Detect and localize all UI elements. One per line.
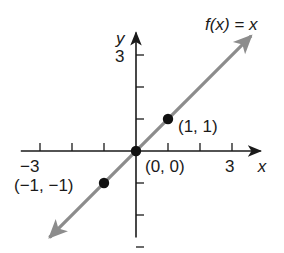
point-label: (0, 0) xyxy=(145,157,185,176)
function-line-path xyxy=(50,36,252,238)
y-tick-label: 3 xyxy=(115,47,124,66)
function-line-start-arrow xyxy=(50,228,60,238)
x-tick-label: 3 xyxy=(225,157,234,176)
function-line xyxy=(50,36,252,238)
function-label: f(x) = x xyxy=(205,15,258,34)
x-tick-label: −3 xyxy=(20,157,39,176)
point-label: (−1, −1) xyxy=(14,176,74,195)
data-point xyxy=(99,178,109,188)
x-axis-label: x xyxy=(257,157,267,176)
graph-canvas: yx3−33f(x) = x(−1, −1)(0, 0)(1, 1) xyxy=(0,0,284,253)
y-axis-label: y xyxy=(115,29,126,48)
data-point xyxy=(131,146,141,156)
function-graph: yx3−33f(x) = x(−1, −1)(0, 0)(1, 1) xyxy=(0,0,284,253)
point-label: (1, 1) xyxy=(178,117,218,136)
data-point xyxy=(163,114,173,124)
graph-labels: yx3−33f(x) = x(−1, −1)(0, 0)(1, 1) xyxy=(14,15,267,195)
